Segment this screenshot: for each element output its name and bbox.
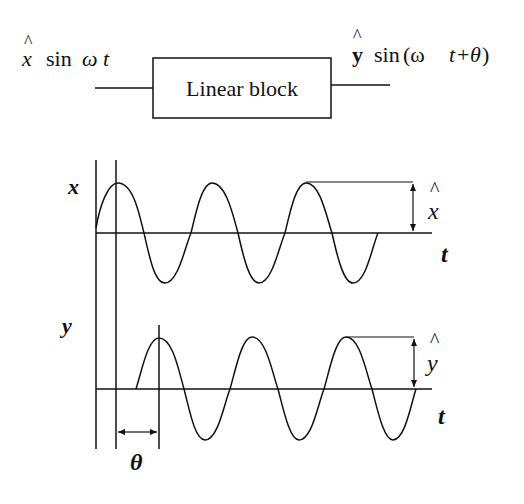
output-arg-plus: + [457,42,469,67]
y-amplitude-hat: ^ [430,329,440,351]
y-amplitude-label: y [425,350,438,376]
output-label: y ^ sin (ω t + θ ) [352,26,489,67]
output-arg-open: (ω [403,42,425,67]
output-arg-close: ) [482,42,489,67]
input-hat: ^ [24,32,33,52]
input-arg: ω t [82,46,110,71]
y-time-label: t [438,403,446,429]
y-axis-label: y [59,313,72,338]
phase-label: θ [130,449,143,475]
output-hat: ^ [353,26,362,46]
input-sin: sin [46,46,72,71]
linear-block-label: Linear block [186,76,298,101]
output-arg-t: t [449,42,456,67]
sine-response-diagram: x ^ sin ω t Linear block y ^ sin (ω t + … [0,0,524,504]
input-label: x ^ sin ω t [21,32,110,71]
output-arg-theta: θ [470,42,481,67]
x-time-label: t [441,241,449,267]
output-sin: sin [374,42,400,67]
x-amplitude-hat: ^ [430,178,440,200]
x-axis-label: x [67,174,79,199]
x-amplitude-label: x [427,198,439,224]
